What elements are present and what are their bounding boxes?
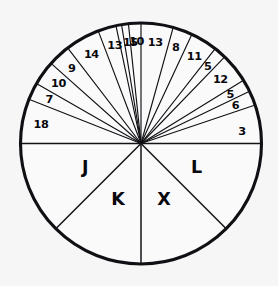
wedge-value-label: 11 bbox=[187, 50, 202, 63]
sector-letter-label-k: K bbox=[111, 189, 126, 209]
wedge-value-label: 6 bbox=[232, 99, 240, 112]
wedge-value-label: 18 bbox=[34, 118, 49, 131]
wedge-value-label: 7 bbox=[46, 93, 53, 106]
wedge-value-label: 10 bbox=[51, 77, 66, 90]
wheel-svg-canvas: 1871091413151013811512563 LXKJ bbox=[0, 0, 278, 286]
wedge-value-label: 10 bbox=[129, 35, 144, 48]
wedge-value-label: 13 bbox=[148, 36, 163, 49]
sector-letter-label-x: X bbox=[157, 189, 171, 209]
wedge-value-label: 9 bbox=[68, 62, 76, 75]
wedge-value-label: 8 bbox=[172, 41, 180, 54]
sector-letter-label-j: J bbox=[81, 157, 89, 177]
wedge-value-label: 3 bbox=[238, 125, 245, 138]
wheel-diagram-figure: 1871091413151013811512563 LXKJ bbox=[0, 0, 278, 286]
wedge-value-label: 5 bbox=[204, 60, 212, 73]
wedge-value-label: 12 bbox=[213, 73, 228, 86]
wedge-value-label: 14 bbox=[84, 48, 99, 61]
sector-letter-label-l: L bbox=[191, 157, 202, 177]
wedge-value-label: 13 bbox=[107, 39, 122, 52]
